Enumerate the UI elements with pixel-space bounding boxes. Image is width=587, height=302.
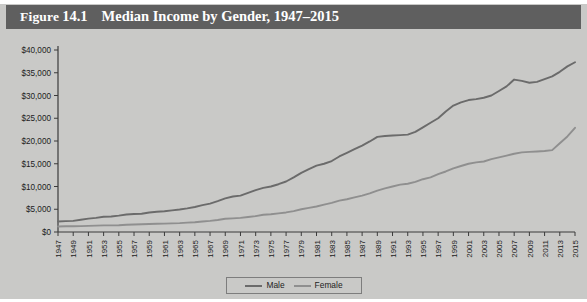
- x-tick-label: 1985: [343, 239, 352, 257]
- x-tick-label: 1977: [282, 239, 291, 257]
- x-tick-label: 1957: [130, 239, 139, 257]
- x-tick-label: 1983: [328, 239, 337, 257]
- x-tick-label: 1969: [221, 239, 230, 257]
- legend-label-male: Male: [266, 281, 284, 289]
- x-tick-label: 1951: [85, 239, 94, 257]
- x-tick-label: 1993: [404, 239, 413, 257]
- series-line-female: [58, 128, 575, 227]
- x-tick-label: 1955: [115, 239, 124, 257]
- figure-container: Figure14.1Median Income by Gender, 1947–…: [0, 0, 587, 302]
- x-tick-label: 1965: [191, 239, 200, 257]
- legend-swatch-male: [245, 285, 262, 287]
- y-tick-label: $15,000: [21, 160, 51, 169]
- x-axis-ticks: 1947194919511953195519571959196119631965…: [54, 232, 580, 258]
- chart-legend: Male Female: [226, 277, 362, 294]
- legend-item-male[interactable]: Male: [245, 281, 284, 289]
- y-tick-label: $35,000: [21, 69, 51, 78]
- x-tick-label: 1997: [434, 239, 443, 257]
- figure-title-bar: Figure14.1Median Income by Gender, 1947–…: [6, 5, 581, 29]
- y-tick-label: $20,000: [21, 137, 51, 146]
- x-tick-label: 1963: [176, 239, 185, 257]
- x-tick-label: 1991: [389, 239, 398, 257]
- legend-swatch-female: [294, 285, 311, 287]
- y-tick-label: $40,000: [21, 46, 51, 55]
- x-tick-label: 1987: [358, 239, 367, 257]
- x-tick-label: 1967: [206, 239, 215, 257]
- x-tick-label: 2013: [556, 239, 565, 257]
- legend-label-female: Female: [315, 281, 343, 289]
- y-tick-label: $30,000: [21, 92, 51, 101]
- x-tick-label: 1979: [297, 239, 306, 257]
- line-chart: $0$5,000$10,000$15,000$20,000$25,000$30,…: [0, 30, 587, 302]
- figure-title: Median Income by Gender, 1947–2015: [102, 8, 340, 24]
- x-tick-label: 1995: [419, 239, 428, 257]
- x-tick-label: 1981: [313, 239, 322, 257]
- legend-item-female[interactable]: Female: [294, 281, 343, 289]
- x-tick-label: 1961: [161, 239, 170, 257]
- x-tick-label: 1989: [374, 239, 383, 257]
- x-tick-label: 2001: [465, 239, 474, 257]
- x-tick-label: 1959: [145, 239, 154, 257]
- x-tick-label: 2015: [571, 239, 580, 257]
- x-tick-label: 1947: [54, 239, 63, 257]
- series-line-male: [58, 62, 575, 221]
- x-tick-label: 1975: [267, 239, 276, 257]
- x-tick-label: 2005: [495, 239, 504, 257]
- x-tick-label: 1971: [237, 239, 246, 257]
- x-tick-label: 2003: [480, 239, 489, 257]
- chart-plot-area: $0$5,000$10,000$15,000$20,000$25,000$30,…: [0, 30, 587, 302]
- y-axis-ticks: $0$5,000$10,000$15,000$20,000$25,000$30,…: [21, 46, 58, 237]
- x-tick-label: 1973: [252, 239, 261, 257]
- y-tick-label: $10,000: [21, 183, 51, 192]
- y-tick-label: $0: [42, 228, 52, 237]
- y-tick-label: $25,000: [21, 114, 51, 123]
- chart-series-group: [58, 62, 575, 226]
- x-tick-label: 2009: [526, 239, 535, 257]
- x-tick-label: 1953: [100, 239, 109, 257]
- x-tick-label: 1999: [450, 239, 459, 257]
- x-tick-label: 2007: [510, 239, 519, 257]
- x-tick-label: 2011: [541, 239, 550, 257]
- figure-label: Figure: [20, 9, 59, 24]
- x-tick-label: 1949: [69, 239, 78, 257]
- figure-number: 14.1: [62, 8, 87, 24]
- y-tick-label: $5,000: [26, 205, 51, 214]
